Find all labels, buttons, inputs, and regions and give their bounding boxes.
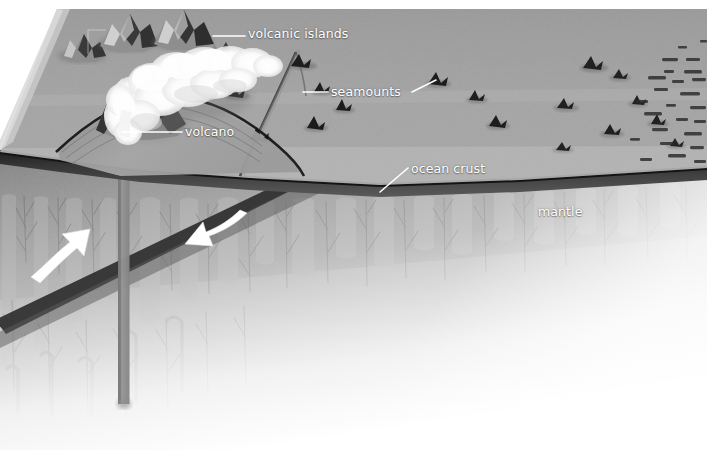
block-diagram-illustration — [0, 0, 707, 450]
sea-floor-surface — [0, 9, 707, 185]
diagram-stage: volcanic islands seamounts volcano ocean… — [0, 0, 707, 450]
